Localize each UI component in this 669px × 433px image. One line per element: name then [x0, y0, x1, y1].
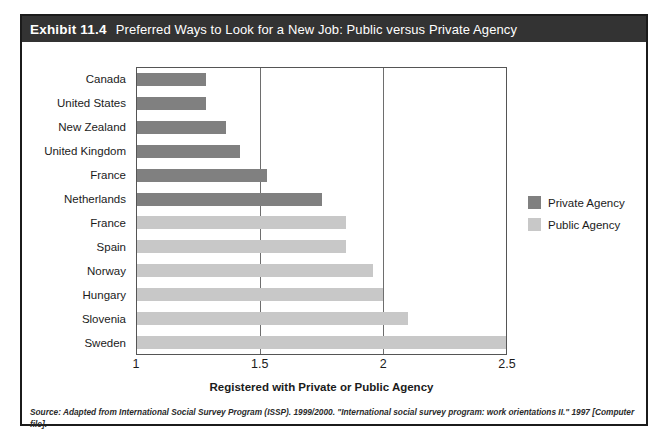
plot-area: [136, 67, 507, 355]
bar-row: [137, 211, 506, 235]
bar-private-agency: [137, 193, 322, 206]
category-axis-labels: CanadaUnited StatesNew ZealandUnited Kin…: [22, 67, 132, 355]
category-label: New Zealand: [22, 115, 132, 139]
category-label: Canada: [22, 67, 132, 91]
legend-item: Private Agency: [528, 196, 646, 209]
bar-row: [137, 259, 506, 283]
x-tick-label: 2: [380, 357, 387, 371]
bar-row: [137, 306, 506, 330]
category-label: United Kingdom: [22, 139, 132, 163]
bars-layer: [137, 68, 506, 354]
source-note: Source: Adapted from International Socia…: [30, 406, 636, 430]
category-label: United States: [22, 91, 132, 115]
bar-public-agency: [137, 288, 383, 301]
x-tick-label: 2.5: [498, 357, 515, 371]
bar-private-agency: [137, 145, 240, 158]
bar-row: [137, 187, 506, 211]
bar-row: [137, 235, 506, 259]
bar-row: [137, 282, 506, 306]
legend-swatch-icon: [528, 218, 541, 231]
bar-public-agency: [137, 264, 373, 277]
bar-public-agency: [137, 216, 346, 229]
bar-private-agency: [137, 73, 206, 86]
legend-item: Public Agency: [528, 218, 646, 231]
bar-private-agency: [137, 169, 267, 182]
bar-public-agency: [137, 240, 346, 253]
x-axis-tick-labels: 11.522.5: [136, 357, 507, 375]
x-tick-label: 1: [133, 357, 140, 371]
x-axis-title: Registered with Private or Public Agency: [136, 381, 507, 393]
legend-swatch-icon: [528, 196, 541, 209]
category-label: France: [22, 163, 132, 187]
category-label: France: [22, 211, 132, 235]
category-label: Hungary: [22, 283, 132, 307]
bar-row: [137, 68, 506, 92]
bar-public-agency: [137, 336, 506, 349]
chart-legend: Private AgencyPublic Agency: [528, 196, 646, 240]
bar-row: [137, 163, 506, 187]
exhibit-frame: Exhibit 11.4 Preferred Ways to Look for …: [20, 14, 648, 426]
category-label: Sweden: [22, 331, 132, 355]
category-label: Spain: [22, 235, 132, 259]
x-tick-label: 1.5: [251, 357, 268, 371]
chart-body: CanadaUnited StatesNew ZealandUnited Kin…: [22, 42, 646, 424]
bar-private-agency: [137, 97, 206, 110]
bar-row: [137, 92, 506, 116]
exhibit-title-bar: Exhibit 11.4 Preferred Ways to Look for …: [22, 16, 646, 42]
bar-private-agency: [137, 121, 226, 134]
category-label: Slovenia: [22, 307, 132, 331]
bar-public-agency: [137, 312, 408, 325]
category-label: Netherlands: [22, 187, 132, 211]
legend-label: Private Agency: [548, 197, 625, 209]
category-label: Norway: [22, 259, 132, 283]
legend-label: Public Agency: [548, 219, 620, 231]
exhibit-number: Exhibit 11.4: [30, 22, 107, 37]
bar-row: [137, 139, 506, 163]
exhibit-title-text: Preferred Ways to Look for a New Job: Pu…: [116, 22, 517, 37]
bar-row: [137, 116, 506, 140]
bar-row: [137, 330, 506, 354]
